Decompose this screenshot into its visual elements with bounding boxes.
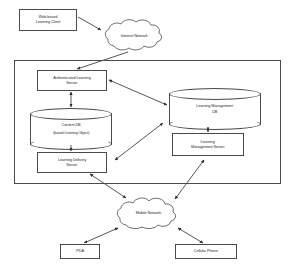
cellular-phone-label: Cellular Phone bbox=[194, 249, 218, 254]
content-db-node[interactable]: Content DB (based Learning Object) bbox=[30, 108, 112, 150]
cellular-phone-node[interactable]: Cellular Phone bbox=[175, 244, 237, 259]
client-label-line2: Learning Client bbox=[36, 20, 60, 25]
authenticated-learning-server-node[interactable]: Authenticated Learning Server bbox=[37, 70, 107, 91]
diagram-canvas: Web-based Learning Client Internet Netwo… bbox=[0, 0, 289, 272]
content-db-label-line2: (based Learning Object) bbox=[53, 131, 89, 135]
pda-node[interactable]: PDA bbox=[60, 244, 100, 259]
web-based-learning-client-node[interactable]: Web-based Learning Client bbox=[19, 9, 77, 31]
pda-label: PDA bbox=[76, 249, 84, 254]
learning-management-db-node[interactable]: Learning Management DB bbox=[169, 88, 261, 130]
lm-server-label-line2: Management Server bbox=[191, 145, 224, 150]
learning-delivery-server-node[interactable]: Learning Delivery Server bbox=[37, 152, 107, 173]
auth-server-label-line2: Server bbox=[67, 81, 78, 86]
internet-cloud-label: Internet Network bbox=[121, 34, 148, 39]
mobile-cloud-label: Mobile Network bbox=[135, 211, 160, 216]
internet-network-cloud[interactable]: Internet Network bbox=[98, 19, 170, 53]
mobile-network-cloud[interactable]: Mobile Network bbox=[110, 196, 186, 231]
learning-management-server-node[interactable]: Learning Management Server bbox=[172, 133, 244, 156]
delivery-server-label-line2: Server bbox=[67, 163, 78, 168]
content-db-label-line1: Content DB bbox=[62, 123, 81, 128]
lm-db-label-line2: DB bbox=[212, 110, 217, 115]
